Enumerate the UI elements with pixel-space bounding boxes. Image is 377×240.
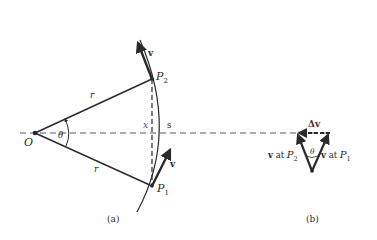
label-v-at-p1: v at P1 xyxy=(320,149,351,163)
panel-a: O r r θ x s v v P2 P1 (a) xyxy=(20,40,330,224)
label-arc-s: s xyxy=(167,120,171,130)
label-p2: P2 xyxy=(155,70,168,85)
caption-b: (b) xyxy=(306,214,319,224)
label-radius-bottom: r xyxy=(94,164,99,174)
label-chord-x: x xyxy=(143,120,148,130)
label-delta-v: Δv xyxy=(308,119,321,129)
radius-line-bottom xyxy=(35,133,152,186)
label-origin: O xyxy=(24,136,33,149)
panel-b: Δv θ v at P2 v at P1 (b) xyxy=(267,119,351,224)
label-radius-top: r xyxy=(90,90,95,100)
caption-a: (a) xyxy=(107,214,119,224)
triangle-vertex xyxy=(310,169,314,173)
label-velocity-top: v xyxy=(147,48,154,58)
label-angle-theta: θ xyxy=(58,130,63,140)
origin-point xyxy=(33,131,38,136)
label-v-at-p2: v at P2 xyxy=(267,149,298,163)
label-p1: P1 xyxy=(156,182,169,197)
label-velocity-bottom: v xyxy=(169,159,176,169)
label-triangle-theta: θ xyxy=(310,147,315,156)
radius-line-top xyxy=(35,79,152,133)
circular-motion-figure: O r r θ x s v v P2 P1 (a) Δv θ v at P2 xyxy=(0,0,377,240)
